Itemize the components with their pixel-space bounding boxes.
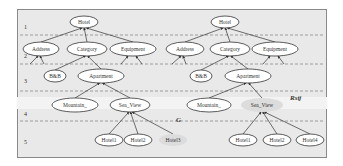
node-label: Address: [32, 46, 50, 52]
node-right-apartment[interactable]: Apartment: [225, 69, 271, 83]
level-number: 2: [24, 53, 27, 59]
node-label: Equipment: [121, 46, 146, 52]
level-number: 1: [24, 24, 27, 30]
edge-hotel1-to-seaview: [109, 112, 129, 134]
edge-mountain-to-apartment: [75, 83, 100, 98]
node-left-hotel1[interactable]: Hotel1: [95, 134, 123, 146]
edge-hotel3-to-seaview: [132, 112, 173, 134]
edge-hotel1-to-seaview: [243, 112, 261, 134]
level-number: 4: [24, 111, 27, 117]
node-right-hotel4[interactable]: Hotel4: [296, 134, 324, 146]
node-label: Hotel2: [131, 137, 146, 143]
node-left-hotel[interactable]: Hotel: [70, 16, 98, 28]
node-left-hotel3[interactable]: Hotel3: [159, 134, 187, 146]
node-label: Hotel4: [303, 137, 318, 143]
edge-apartment-to-category: [231, 56, 248, 69]
node-left-category[interactable]: Category: [67, 42, 107, 56]
node-left-hotel2[interactable]: Hotel2: [124, 134, 152, 146]
incoming-edge: [172, 56, 181, 64]
node-label: Hotel: [219, 19, 232, 25]
node-label: Apartment: [236, 73, 260, 79]
edge-hotel4-to-seaview: [264, 112, 310, 134]
incoming-edge: [263, 56, 270, 64]
edge-mountain-to-apartment: [209, 83, 246, 98]
incoming-edge: [121, 56, 128, 64]
node-left-seaview[interactable]: Sea_View: [110, 98, 150, 112]
node-left-mountain[interactable]: Mountain_: [52, 98, 98, 112]
edge-seaview-to-apartment: [102, 83, 130, 98]
incoming-edge: [40, 56, 44, 64]
incoming-edge: [183, 56, 186, 64]
node-label: Category: [77, 46, 97, 52]
edge-hotel2-to-seaview: [130, 112, 138, 134]
level-number: 5: [24, 139, 27, 145]
node-label: Hotel3: [166, 137, 181, 143]
ontology-tree-diagram: 12345 HotelAddressCategoryEquipmentB&BAp…: [0, 0, 343, 166]
node-left-apartment[interactable]: Apartment: [78, 69, 124, 83]
node-label: B&B: [195, 73, 207, 79]
node-right-bnb[interactable]: B&B: [190, 70, 212, 82]
node-label: Mountain_: [197, 102, 221, 108]
edge-hotel2-to-seaview: [263, 112, 277, 134]
node-label: Hotel2: [270, 137, 285, 143]
node-label: Apartment: [89, 73, 113, 79]
edge-bnb-to-category: [201, 56, 229, 70]
node-right-hotel2[interactable]: Hotel2: [263, 134, 291, 146]
node-left-equipment[interactable]: Equipment: [110, 42, 156, 56]
node-label: Sea_View: [251, 102, 273, 108]
node-label: Hotel: [78, 19, 91, 25]
incoming-edge: [30, 56, 38, 64]
incoming-edge: [278, 56, 284, 64]
node-label: Address: [176, 46, 194, 52]
edge-apartment-to-category: [88, 56, 101, 69]
node-label: Equipment: [263, 46, 288, 52]
node-label: Category: [220, 46, 240, 52]
cut-label-rstj: Rstj: [289, 94, 301, 102]
node-right-category[interactable]: Category: [210, 42, 250, 56]
node-left-address[interactable]: Address: [23, 42, 59, 56]
edge-bnb-to-category: [55, 56, 85, 70]
edge-seaview-to-apartment: [249, 83, 262, 98]
node-right-equipment[interactable]: Equipment: [252, 42, 298, 56]
node-label: B&B: [49, 73, 61, 79]
node-label: Hotel1: [236, 137, 251, 143]
node-right-mountain[interactable]: Mountain_: [187, 98, 231, 112]
node-right-address[interactable]: Address: [166, 42, 204, 56]
node-label: Hotel1: [102, 137, 117, 143]
incoming-edge: [136, 56, 142, 64]
node-left-bnb[interactable]: B&B: [44, 70, 66, 82]
node-label: Sea_View: [119, 102, 141, 108]
cut-label-g: G: [176, 116, 181, 124]
node-right-hotel1[interactable]: Hotel1: [229, 134, 257, 146]
level-number: 3: [24, 78, 27, 84]
node-label: Mountain_: [63, 102, 87, 108]
node-right-hotel[interactable]: Hotel: [211, 16, 239, 28]
node-right-seaview[interactable]: Sea_View: [241, 98, 283, 112]
